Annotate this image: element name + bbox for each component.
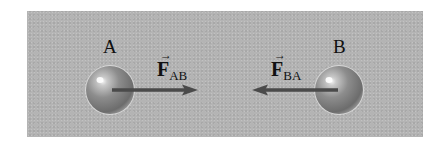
vector-arrow-icon: → — [274, 48, 286, 63]
sphere-a-label: A — [103, 36, 117, 58]
force-subscript: BA — [283, 68, 301, 83]
diagram-canvas — [0, 0, 440, 148]
force-label-ba: →FBA — [271, 58, 301, 81]
sphere-b-label: B — [333, 36, 346, 58]
force-label-ab: →FAB — [157, 58, 187, 81]
vector-arrow-icon: → — [160, 48, 172, 63]
force-subscript: AB — [169, 68, 187, 83]
